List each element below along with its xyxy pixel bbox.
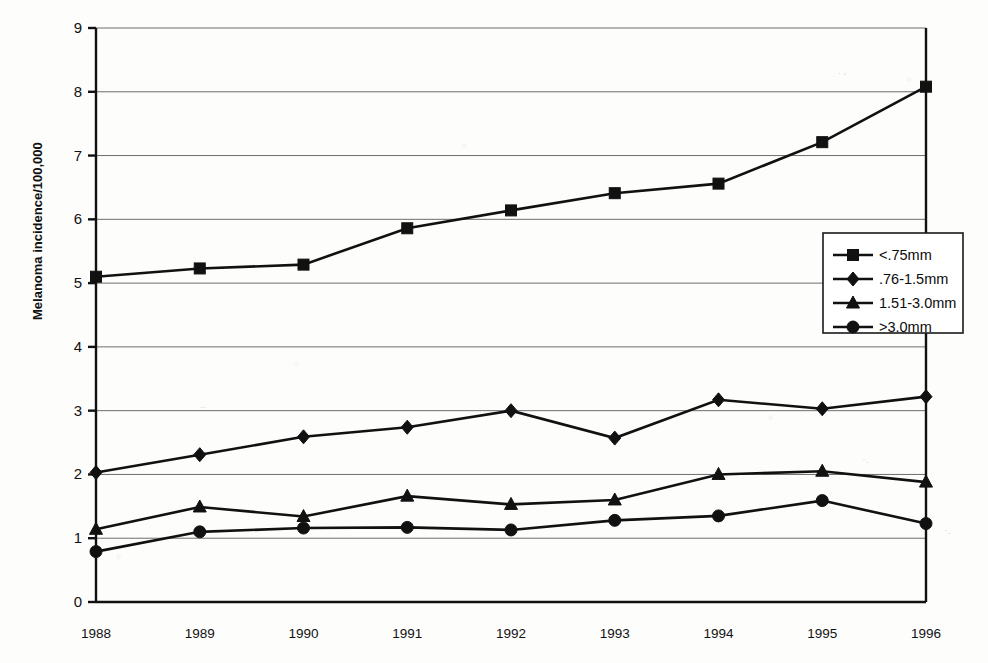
data-point	[920, 518, 932, 530]
legend-label: >3.0mm	[879, 319, 932, 335]
scan-artifact-a: . ,	[838, 64, 847, 76]
y-tick-label: 0	[74, 593, 82, 610]
y-tick-label: 9	[74, 19, 82, 36]
data-point	[194, 448, 206, 462]
data-series-layer	[90, 81, 933, 557]
x-tick-label: 1989	[185, 626, 215, 641]
data-point	[401, 489, 414, 501]
series-1	[91, 81, 932, 282]
y-tick-label: 3	[74, 402, 82, 419]
scan-artifact-c: ·.	[862, 453, 869, 465]
data-point	[90, 466, 102, 480]
data-point	[194, 263, 205, 274]
y-tick-labels: 0123456789	[74, 19, 82, 610]
grid-lines	[96, 28, 926, 538]
data-point	[402, 223, 413, 234]
y-tick-label: 7	[74, 147, 82, 164]
x-tick-label: 1995	[807, 626, 837, 641]
scan-artifact-d: ·.	[944, 524, 951, 536]
data-point	[505, 404, 517, 418]
y-tick-label: 6	[74, 210, 82, 227]
x-tick-label: 1988	[81, 626, 111, 641]
y-tick-label: 8	[74, 83, 82, 100]
data-point	[816, 495, 828, 507]
chart-figure: 0123456789 19881989199019911992199319941…	[0, 0, 988, 663]
data-point	[91, 271, 102, 282]
y-tick-label: 5	[74, 274, 82, 291]
y-tick-label: 1	[74, 529, 82, 546]
data-point	[90, 546, 102, 558]
legend-label: .76-1.5mm	[879, 271, 948, 287]
legend-label: <.75mm	[879, 247, 932, 263]
data-point	[609, 431, 621, 445]
x-tick-label: 1990	[288, 626, 318, 641]
data-point	[816, 402, 828, 416]
data-point	[401, 521, 413, 533]
data-point	[713, 510, 725, 522]
legend-marker-square	[848, 250, 859, 261]
line-chart: 0123456789 19881989199019911992199319941…	[0, 0, 988, 663]
scan-artifact-b: ..	[200, 398, 206, 410]
y-tick-label: 4	[74, 338, 82, 355]
data-point	[193, 500, 206, 512]
series-line	[96, 87, 926, 277]
x-tick-label: 1994	[703, 626, 734, 641]
data-point	[194, 526, 206, 538]
data-point	[506, 205, 517, 216]
legend-label: 1.51-3.0mm	[879, 295, 956, 311]
data-point	[505, 524, 517, 536]
series-2	[90, 390, 932, 480]
x-tick-labels: 198819891990199119921993199419951996	[81, 626, 941, 641]
data-point	[921, 81, 932, 92]
data-point	[817, 137, 828, 148]
data-point	[609, 514, 621, 526]
data-point	[713, 178, 724, 189]
data-point	[298, 522, 310, 534]
x-tick-label: 1991	[392, 626, 422, 641]
y-axis-title: Melanoma incidence/100,000	[30, 142, 45, 320]
chart-legend: <.75mm.76-1.5mm1.51-3.0mm>3.0mm	[823, 233, 963, 335]
legend-item-1: <.75mm	[833, 247, 932, 263]
data-point	[609, 188, 620, 199]
data-point	[298, 259, 309, 270]
data-point	[713, 393, 725, 407]
x-tick-label: 1996	[911, 626, 941, 641]
data-point	[298, 430, 310, 444]
data-point	[401, 420, 413, 434]
data-point	[920, 390, 932, 404]
x-tick-label: 1992	[496, 626, 526, 641]
x-tick-label: 1993	[600, 626, 630, 641]
legend-marker-circle	[847, 321, 859, 333]
y-tick-label: 2	[74, 465, 82, 482]
